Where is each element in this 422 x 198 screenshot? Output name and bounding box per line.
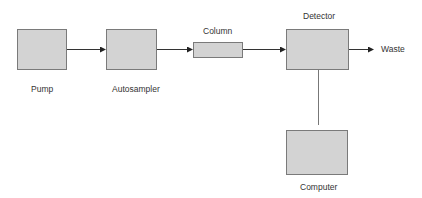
pump-box bbox=[17, 29, 67, 70]
computer-label: Computer bbox=[300, 182, 337, 192]
pump-label: Pump bbox=[31, 84, 53, 94]
autosampler-label: Autosampler bbox=[112, 84, 160, 94]
waste-label: Waste bbox=[381, 44, 405, 54]
detector-label: Detector bbox=[303, 11, 335, 21]
column-box bbox=[193, 42, 243, 58]
computer-box bbox=[286, 130, 348, 175]
column-label: Column bbox=[203, 26, 232, 36]
detector-box bbox=[286, 29, 349, 70]
autosampler-box bbox=[106, 29, 157, 70]
